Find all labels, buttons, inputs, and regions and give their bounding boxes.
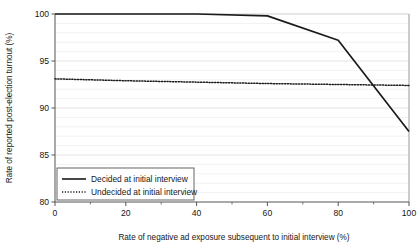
legend: Decided at initial interview Undecided a…	[57, 168, 198, 200]
x-axis-title: Rate of negative ad exposure subsequent …	[118, 233, 349, 242]
x-tick-label: 20	[121, 208, 131, 218]
y-axis-tick-marks	[52, 14, 56, 202]
legend-label-decided: Decided at initial interview	[91, 174, 189, 184]
y-axis-title: Rate of reported post-election turnout (…	[5, 32, 14, 183]
y-tick-label: 100	[35, 9, 50, 19]
y-tick-label: 95	[39, 56, 49, 66]
x-tick-label: 40	[192, 208, 202, 218]
x-axis-tick-labels: 020406080100	[53, 208, 417, 218]
x-axis-tick-marks	[55, 202, 409, 206]
x-tick-label: 60	[263, 208, 273, 218]
y-tick-label: 85	[39, 150, 49, 160]
chart-figure: 80859095100 020406080100 Rate of negativ…	[0, 0, 419, 250]
y-tick-label: 90	[39, 103, 49, 113]
x-tick-label: 100	[402, 208, 417, 218]
legend-label-undecided: Undecided at initial interview	[91, 187, 198, 197]
x-tick-label: 0	[53, 208, 58, 218]
x-tick-label: 80	[333, 208, 343, 218]
line-chart: 80859095100 020406080100 Rate of negativ…	[0, 0, 419, 250]
y-axis-tick-labels: 80859095100	[35, 9, 50, 207]
y-tick-label: 80	[39, 197, 49, 207]
